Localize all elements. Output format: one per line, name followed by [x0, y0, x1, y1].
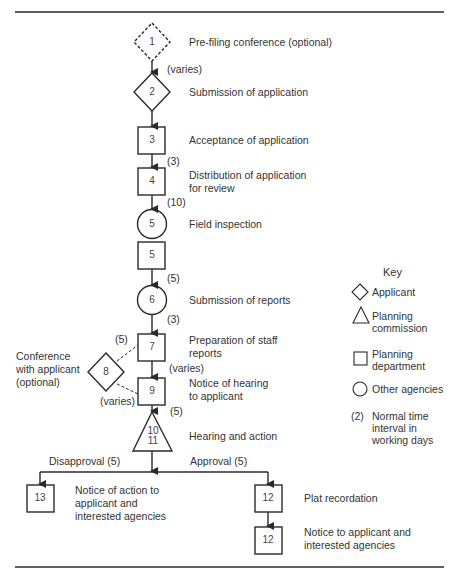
- key-label-agencies: Other agencies: [372, 383, 443, 396]
- flowchart-diagram: 1 2 3 4 5 5 6 7 8 9 10 11 13 12 12 Pre-f…: [0, 0, 459, 583]
- step-number: 11: [138, 436, 168, 446]
- interval-label: (varies): [167, 63, 202, 76]
- step-label: Hearing and action: [189, 430, 277, 443]
- key-diamond-icon: [352, 284, 368, 300]
- key-triangle-icon: [353, 307, 369, 323]
- step-label: Submission of application: [189, 86, 308, 99]
- step-label: interested agencies: [75, 510, 166, 523]
- interval-label: (3): [167, 313, 180, 326]
- key-circle-icon: [353, 382, 367, 396]
- step-label: interested agencies: [304, 539, 395, 552]
- step-number: 12: [253, 534, 283, 546]
- step-number: 5: [137, 218, 167, 230]
- step-number: 2: [137, 86, 167, 98]
- approval-label: Approval (5): [190, 455, 247, 468]
- step-label: Preparation of staff: [189, 334, 278, 347]
- step-number: 12: [253, 492, 283, 504]
- step-number: 6: [137, 294, 167, 306]
- step-label: Conference: [16, 350, 70, 363]
- step-label: Notice to applicant and: [304, 526, 411, 539]
- interval-label: (varies): [100, 395, 135, 408]
- step-number: 7: [137, 341, 167, 353]
- key-label-interval: working days: [372, 434, 433, 447]
- key-title: Key: [383, 266, 402, 279]
- key-label-department: department: [372, 360, 425, 373]
- key-label-commission: commission: [372, 322, 427, 335]
- key-square-icon: [354, 352, 367, 365]
- step-number: 3: [137, 134, 167, 146]
- step-label: for review: [189, 182, 235, 195]
- step-label: Pre-filing conference (optional): [189, 36, 332, 49]
- step-label: Distribution of application: [189, 169, 306, 182]
- step-label: Plat recordation: [304, 492, 378, 505]
- step-label: reports: [189, 347, 222, 360]
- interval-label: (3): [167, 155, 180, 168]
- step-label: to applicant: [189, 390, 243, 403]
- step-label: with applicant: [16, 363, 80, 376]
- interval-label: (10): [167, 196, 186, 209]
- disapproval-label: Disapproval (5): [49, 455, 120, 468]
- step-label: Notice of hearing: [189, 377, 268, 390]
- interval-label: (5): [115, 333, 128, 346]
- step-label: Notice of action to: [75, 484, 159, 497]
- step-number: 13: [25, 492, 55, 504]
- step-number: 1: [137, 36, 167, 48]
- interval-label: (5): [170, 405, 183, 418]
- step-number: 9: [137, 385, 167, 397]
- step-number: 4: [137, 175, 167, 187]
- step-label: Submission of reports: [189, 294, 291, 307]
- step-label: (optional): [16, 376, 60, 389]
- interval-label: (5): [167, 272, 180, 285]
- step-label: Field inspection: [189, 218, 262, 231]
- step-label: Acceptance of application: [189, 134, 309, 147]
- dashed-link-8-9: [117, 384, 138, 394]
- key-label-applicant: Applicant: [372, 286, 415, 299]
- step-number: 8: [91, 366, 121, 378]
- interval-label: (varies): [169, 362, 204, 375]
- step-label: applicant and: [75, 497, 137, 510]
- step-number: 5: [137, 249, 167, 261]
- key-interval-symbol: (2): [351, 410, 364, 423]
- dashed-link-7-8: [117, 345, 138, 361]
